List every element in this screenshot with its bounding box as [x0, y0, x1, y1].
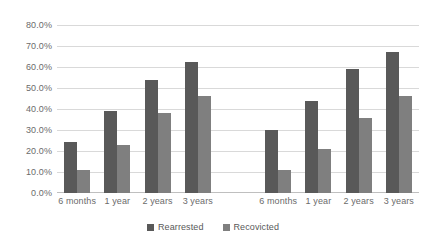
- bar: [64, 142, 77, 193]
- bars-layer: [57, 25, 419, 193]
- legend-label: Rearrested: [158, 222, 204, 232]
- y-tick-label: 20.0%: [26, 146, 52, 156]
- bar: [278, 170, 291, 193]
- bar: [117, 145, 130, 193]
- bar-chart: 0.0%10.0%20.0%30.0%40.0%50.0%60.0%70.0%8…: [0, 0, 426, 245]
- bar: [158, 113, 171, 193]
- legend-swatch-icon: [147, 224, 154, 231]
- bar: [399, 96, 412, 193]
- bar: [185, 62, 198, 193]
- bar: [77, 170, 90, 193]
- chart-legend: RearrestedRecovicted: [0, 222, 426, 232]
- bar: [265, 130, 278, 193]
- y-tick-label: 80.0%: [26, 20, 52, 30]
- x-axis: 6 months1 year2 years3 years6 months1 ye…: [57, 196, 419, 206]
- bar: [386, 52, 399, 193]
- x-tick-label: 3 years: [178, 196, 218, 206]
- bar-group-empty: [218, 25, 258, 193]
- legend-entry[interactable]: Rearrested: [147, 222, 204, 232]
- y-tick-label: 30.0%: [26, 125, 52, 135]
- x-tick-label: 1 year: [298, 196, 338, 206]
- y-tick-label: 40.0%: [26, 104, 52, 114]
- bar: [145, 80, 158, 193]
- x-tick-label: 1 year: [97, 196, 137, 206]
- legend-label: Recovicted: [234, 222, 280, 232]
- x-tick-label: 2 years: [137, 196, 177, 206]
- x-tick-label: 6 months: [57, 196, 97, 206]
- bar-group: [97, 25, 137, 193]
- bar: [318, 149, 331, 193]
- bar-group: [339, 25, 379, 193]
- legend-swatch-icon: [223, 224, 230, 231]
- bar-group: [178, 25, 218, 193]
- y-tick-label: 10.0%: [26, 167, 52, 177]
- y-axis: 0.0%10.0%20.0%30.0%40.0%50.0%60.0%70.0%8…: [0, 25, 52, 193]
- x-tick-label: 6 months: [258, 196, 298, 206]
- bar: [305, 101, 318, 193]
- bar: [104, 111, 117, 193]
- y-tick-label: 70.0%: [26, 41, 52, 51]
- legend-entry[interactable]: Recovicted: [223, 222, 280, 232]
- x-tick-label: 3 years: [379, 196, 419, 206]
- bar: [198, 96, 211, 193]
- bar: [346, 69, 359, 193]
- bar-group: [57, 25, 97, 193]
- x-tick-label: 2 years: [339, 196, 379, 206]
- bar-group: [298, 25, 338, 193]
- y-tick-label: 0.0%: [31, 188, 52, 198]
- y-tick-label: 60.0%: [26, 62, 52, 72]
- x-tick-label-empty: [218, 196, 258, 206]
- bar-group: [379, 25, 419, 193]
- y-tick-label: 50.0%: [26, 83, 52, 93]
- bar-group: [137, 25, 177, 193]
- bar: [359, 118, 372, 193]
- bar-group: [258, 25, 298, 193]
